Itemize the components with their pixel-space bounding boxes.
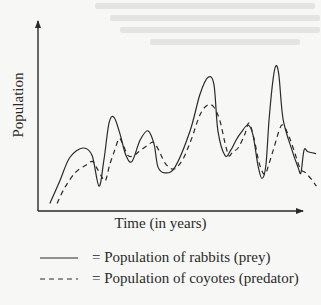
legend-swatch-dashed: [40, 274, 86, 284]
series-line-coyotes: [57, 105, 316, 204]
series-layer: [50, 66, 316, 204]
legend-swatch-solid: [40, 253, 86, 263]
series-line-rabbits: [50, 66, 316, 204]
legend: = Population of rabbits (prey) = Populat…: [40, 247, 299, 289]
legend-item-rabbits: = Population of rabbits (prey): [40, 247, 299, 268]
legend-item-coyotes: = Population of coyotes (predator): [40, 268, 299, 289]
x-axis-label: Time (in years): [0, 215, 321, 232]
y-axis-label: Population: [10, 78, 27, 138]
legend-label-rabbits: = Population of rabbits (prey): [92, 249, 270, 266]
legend-label-coyotes: = Population of coyotes (predator): [92, 270, 299, 287]
